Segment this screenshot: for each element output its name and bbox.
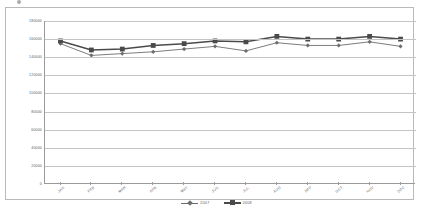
legend-key bbox=[224, 200, 241, 207]
x-axis: JANFEBMARAPRMAYJUNJULAUGSEPOCTNOVDEC bbox=[44, 185, 415, 199]
y-tick-label: 20000 bbox=[8, 164, 42, 169]
diamond-marker bbox=[368, 40, 372, 44]
line-chart: 0200004000060000800001000001200001400001… bbox=[0, 0, 421, 209]
y-tick-label: 60000 bbox=[8, 127, 42, 132]
gridline bbox=[45, 39, 416, 40]
scan-artifact-speck bbox=[17, 0, 21, 4]
diamond-marker bbox=[213, 44, 217, 48]
legend-key bbox=[181, 200, 198, 207]
legend-label: 2007 bbox=[200, 200, 209, 206]
chart-frame: 0200004000060000800001000001200001400001… bbox=[5, 7, 414, 200]
chart-legend: 20072008 bbox=[6, 198, 421, 208]
x-tick-mark bbox=[60, 182, 61, 185]
square-marker bbox=[89, 48, 94, 53]
x-tick-mark bbox=[90, 182, 91, 185]
legend-entry-2008[interactable]: 2008 bbox=[224, 200, 252, 207]
gridline bbox=[45, 148, 416, 149]
diamond-marker bbox=[182, 47, 186, 51]
gridline bbox=[45, 130, 416, 131]
x-tick-mark bbox=[307, 182, 308, 185]
y-tick-label: 180000 bbox=[8, 19, 42, 24]
series-layer bbox=[45, 21, 416, 184]
y-axis: 0200004000060000800001000001200001400001… bbox=[6, 21, 42, 184]
y-tick-label: 100000 bbox=[8, 91, 42, 96]
square-marker bbox=[120, 47, 125, 52]
x-tick-mark bbox=[245, 182, 246, 185]
gridline bbox=[45, 166, 416, 167]
y-tick-label: 120000 bbox=[8, 73, 42, 78]
diamond-marker bbox=[398, 44, 402, 48]
gridline bbox=[45, 21, 416, 22]
series-line-2007 bbox=[60, 42, 400, 56]
x-tick-mark bbox=[276, 182, 277, 185]
plot-area bbox=[44, 21, 415, 184]
diamond-marker bbox=[306, 43, 310, 47]
diamond-marker bbox=[120, 52, 124, 56]
x-tick-mark bbox=[121, 182, 122, 185]
square-marker bbox=[151, 43, 156, 48]
x-tick-mark bbox=[214, 182, 215, 185]
diamond-marker bbox=[337, 43, 341, 47]
square-marker bbox=[230, 200, 235, 205]
square-marker bbox=[274, 34, 279, 39]
legend-entry-2007[interactable]: 2007 bbox=[181, 200, 209, 207]
gridline bbox=[45, 93, 416, 94]
legend-label: 2008 bbox=[243, 200, 252, 206]
gridline bbox=[45, 75, 416, 76]
square-marker bbox=[182, 41, 187, 46]
x-tick-mark bbox=[152, 182, 153, 185]
diamond-marker bbox=[187, 200, 193, 206]
x-tick-mark bbox=[183, 182, 184, 185]
diamond-marker bbox=[244, 49, 248, 53]
y-tick-label: 160000 bbox=[8, 37, 42, 42]
y-tick-label: 0 bbox=[8, 182, 42, 187]
diamond-marker bbox=[151, 50, 155, 54]
x-tick-mark bbox=[369, 182, 370, 185]
y-tick-label: 140000 bbox=[8, 55, 42, 60]
x-tick-mark bbox=[338, 182, 339, 185]
square-marker bbox=[367, 34, 372, 39]
diamond-marker bbox=[275, 41, 279, 45]
y-tick-label: 80000 bbox=[8, 109, 42, 114]
x-tick-mark bbox=[400, 182, 401, 185]
gridline bbox=[45, 57, 416, 58]
y-tick-label: 40000 bbox=[8, 145, 42, 150]
square-marker bbox=[244, 39, 249, 44]
gridline bbox=[45, 112, 416, 113]
